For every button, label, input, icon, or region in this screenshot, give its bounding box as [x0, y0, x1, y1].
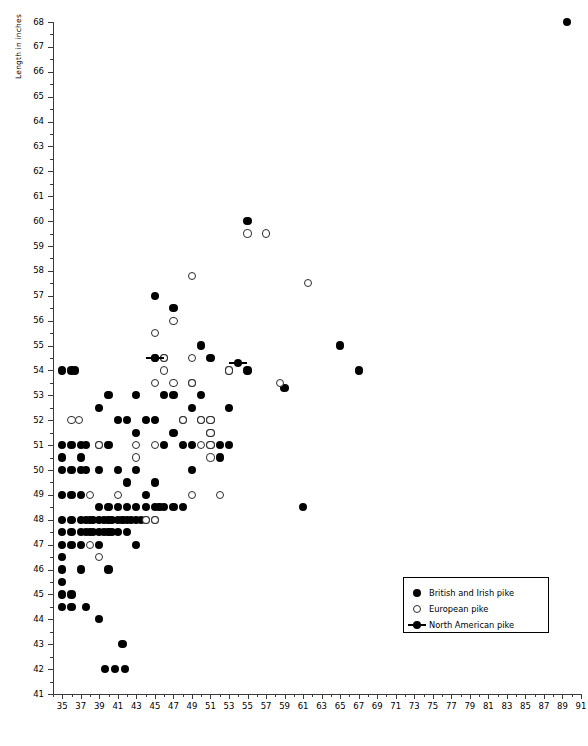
data-point — [82, 603, 90, 611]
y-tick — [48, 470, 53, 471]
data-point — [151, 416, 159, 424]
x-tick-minor — [461, 694, 462, 697]
data-point — [67, 491, 75, 499]
x-tick-minor — [275, 694, 276, 697]
y-tick — [48, 22, 53, 23]
y-tick-label: 57 — [26, 291, 44, 300]
x-tick-label: 79 — [460, 702, 480, 711]
y-tick-label: 51 — [26, 441, 44, 450]
y-tick-minor — [50, 507, 53, 508]
x-tick-minor — [53, 694, 54, 697]
y-tick-minor — [50, 607, 53, 608]
data-point — [95, 404, 103, 412]
y-tick-label: 52 — [26, 416, 44, 425]
data-point — [132, 453, 140, 461]
data-point — [336, 341, 344, 349]
data-point — [58, 553, 66, 561]
y-tick-minor — [50, 159, 53, 160]
data-point — [169, 429, 177, 437]
data-point — [188, 466, 196, 474]
y-tick-minor — [50, 109, 53, 110]
data-point — [58, 541, 66, 549]
x-tick-label: 61 — [293, 702, 313, 711]
y-tick-label: 50 — [26, 466, 44, 475]
x-tick-label: 81 — [478, 702, 498, 711]
data-point — [132, 441, 140, 449]
data-point — [304, 279, 312, 287]
y-tick-label: 48 — [26, 515, 44, 524]
x-tick-label: 73 — [404, 702, 424, 711]
data-point — [67, 541, 75, 549]
data-point — [169, 503, 177, 511]
x-tick-label: 77 — [441, 702, 461, 711]
x-tick-minor — [516, 694, 517, 697]
y-tick-label: 60 — [26, 217, 44, 226]
y-tick-minor — [50, 184, 53, 185]
x-tick-label: 69 — [367, 702, 387, 711]
x-tick — [451, 694, 452, 699]
y-tick-label: 59 — [26, 242, 44, 251]
data-point — [67, 590, 75, 598]
data-point — [188, 379, 196, 387]
data-point — [169, 391, 177, 399]
data-point — [151, 329, 159, 337]
x-tick-minor — [90, 694, 91, 697]
y-tick-label: 68 — [26, 18, 44, 27]
x-tick-minor — [201, 694, 202, 697]
y-tick-label: 65 — [26, 92, 44, 101]
data-point — [142, 503, 150, 511]
x-tick-label: 87 — [534, 702, 554, 711]
data-point — [58, 453, 66, 461]
data-point — [243, 229, 251, 237]
x-tick-minor — [553, 694, 554, 697]
data-point — [123, 503, 131, 511]
data-point — [206, 354, 214, 362]
legend-box: British and Irish pikeEuropean pikeNorth… — [403, 577, 549, 633]
data-point — [142, 516, 150, 524]
data-point — [123, 528, 131, 536]
data-point — [169, 379, 177, 387]
y-tick — [48, 495, 53, 496]
x-tick — [581, 694, 582, 699]
x-tick-minor — [72, 694, 73, 697]
data-point — [225, 366, 233, 374]
x-tick — [544, 694, 545, 699]
x-tick-minor — [405, 694, 406, 697]
x-tick — [396, 694, 397, 699]
y-tick-label: 53 — [26, 391, 44, 400]
data-point — [58, 603, 66, 611]
data-point — [67, 603, 75, 611]
x-tick-minor — [109, 694, 110, 697]
x-tick — [155, 694, 156, 699]
x-tick — [377, 694, 378, 699]
data-point — [75, 416, 83, 424]
y-tick-minor — [50, 258, 53, 259]
data-point — [123, 416, 131, 424]
legend-label-3: North American pike — [429, 620, 514, 630]
x-tick — [118, 694, 119, 699]
data-point — [276, 379, 284, 387]
y-tick-label: 58 — [26, 266, 44, 275]
y-tick — [48, 47, 53, 48]
x-tick-label: 53 — [219, 702, 239, 711]
data-point — [58, 441, 66, 449]
x-tick-minor — [146, 694, 147, 697]
y-tick-minor — [50, 333, 53, 334]
y-tick-minor — [50, 682, 53, 683]
x-tick-minor — [238, 694, 239, 697]
data-point — [151, 516, 159, 524]
data-point — [132, 429, 140, 437]
data-point — [118, 640, 126, 648]
x-tick — [340, 694, 341, 699]
y-tick-label: 45 — [26, 590, 44, 599]
x-tick-minor — [368, 694, 369, 697]
data-point — [169, 317, 177, 325]
data-point — [225, 441, 233, 449]
data-point — [114, 503, 122, 511]
y-tick — [48, 196, 53, 197]
y-tick-minor — [50, 657, 53, 658]
y-tick — [48, 146, 53, 147]
legend-marker-3 — [413, 621, 421, 629]
data-point — [142, 416, 150, 424]
data-point — [188, 441, 196, 449]
